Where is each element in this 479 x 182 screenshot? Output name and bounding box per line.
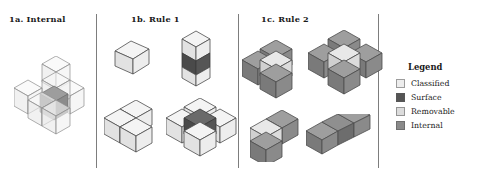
shape-rule2-horizontal-triple (306, 114, 384, 160)
legend-label-internal: Internal (411, 122, 443, 130)
legend-label-removable: Removable (411, 108, 455, 116)
shape-rule2-corner-cluster (250, 110, 314, 162)
shape-rule1-vertical-triple (178, 28, 224, 90)
legend-item-surface: Surface (396, 91, 476, 104)
legend-title: Legend (408, 62, 476, 72)
figure-canvas: 1a. Internal 1b. Rule 1 1c. Rule 2 (0, 0, 479, 182)
legend-label-surface: Surface (411, 94, 442, 102)
legend-swatch-internal (396, 121, 405, 130)
panel-divider-1 (96, 14, 97, 168)
shape-internal-cross-wireframe (14, 56, 96, 148)
panel-title-1b: 1b. Rule 1 (131, 14, 180, 24)
legend-swatch-classified (396, 79, 405, 88)
panel-title-1c: 1c. Rule 2 (261, 14, 309, 24)
legend-item-removable: Removable (396, 105, 476, 118)
legend-label-classified: Classified (411, 80, 449, 88)
panel-title-1a: 1a. Internal (9, 14, 66, 24)
legend-swatch-surface (396, 93, 405, 102)
legend: Legend Classified Surface Removable Inte… (396, 62, 476, 133)
shape-rule1-cross-cluster (166, 98, 242, 158)
legend-swatch-removable (396, 107, 405, 116)
shape-rule2-plus-cluster (308, 30, 386, 100)
shape-rule1-single-cube (113, 38, 157, 78)
legend-item-internal: Internal (396, 119, 476, 132)
legend-item-classified: Classified (396, 77, 476, 90)
shape-rule2-tee-cluster (242, 40, 318, 100)
